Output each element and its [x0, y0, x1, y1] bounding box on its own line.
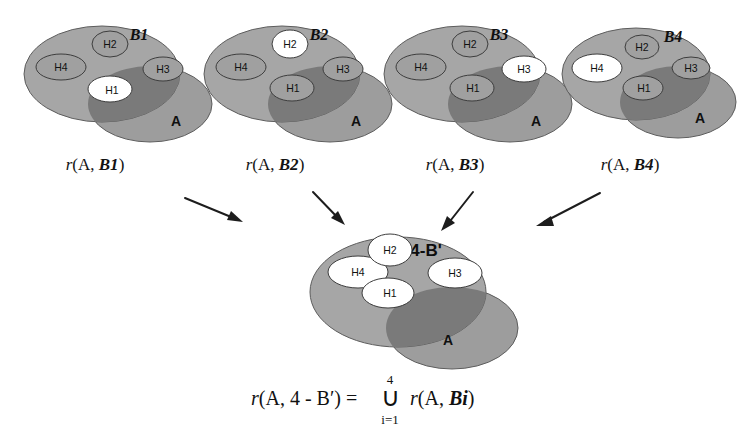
venn-union-figure: B1 A H4 H2 H3 H1 r(A, B1) B2 A	[0, 0, 742, 446]
panel-b4-caption-arg-b: B4	[633, 155, 654, 174]
panel-union-h3-label: H3	[448, 267, 462, 279]
panel-b2-caption-arg-a: A	[258, 155, 271, 174]
panel-b2-h3-label: H3	[336, 63, 350, 75]
panel-union-set-a-label: A	[443, 332, 453, 348]
formula-lhs-r: r	[251, 387, 259, 409]
panel-b1-caption: r(A, B1)	[66, 155, 125, 174]
panel-b1-h4-label: H4	[54, 61, 68, 73]
panel-b4-h4-label: H4	[590, 62, 604, 74]
formula-rhs-arg-b: Bi	[448, 387, 468, 409]
panel-b4-h3-label: H3	[684, 62, 698, 74]
panel-b3-caption: r(A, B3)	[426, 155, 485, 174]
formula-lhs: r(A, 4 - B′) =	[251, 387, 357, 410]
figure-root: B1 A H4 H2 H3 H1 r(A, B1) B2 A	[0, 0, 742, 446]
panel-b3-h1-label: H1	[466, 82, 480, 94]
formula-lhs-args: (A, 4 - B′) =	[259, 387, 357, 410]
formula-rhs-arg-a: A	[424, 387, 439, 409]
formula-union-lower-limit: i=1	[381, 412, 398, 427]
panel-b3-set-b-label: B3	[489, 26, 509, 43]
panel-b3-set-a-label: A	[531, 113, 541, 129]
panel-b1-h1-label: H1	[105, 84, 119, 96]
panel-union-h2-label: H2	[383, 244, 397, 256]
formula-union-symbol: ∪	[381, 383, 400, 412]
panel-b1-h3-label: H3	[156, 63, 170, 75]
panel-b3-caption-arg-a: A	[438, 155, 451, 174]
panel-b4-set-b-label: B4	[663, 28, 683, 45]
panel-b2-h4-label: H4	[234, 61, 248, 73]
panel-b1-h2-label: H2	[103, 38, 117, 50]
panel-b4-h1-label: H1	[637, 82, 651, 94]
panel-b2-h1-label: H1	[286, 82, 300, 94]
panel-b3-h3-label: H3	[517, 63, 531, 75]
panel-b4-h2-label: H2	[635, 41, 649, 53]
panel-b2-caption: r(A, B2)	[246, 155, 305, 174]
panel-union-set-b-label: 4-B'	[410, 241, 441, 260]
panel-b3-h4-label: H4	[414, 61, 428, 73]
panel-b3-h2-label: H2	[463, 38, 477, 50]
panel-b3-caption-arg-b: B3	[458, 155, 479, 174]
panel-b2-set-b-label: B2	[309, 26, 329, 43]
panel-b1-set-b-label: B1	[129, 26, 149, 43]
panel-b1-set-a-label: A	[171, 113, 181, 129]
panel-b2-caption-arg-b: B2	[278, 155, 299, 174]
panel-union-h1-label: H1	[383, 287, 397, 299]
panel-b2-h2-label: H2	[283, 38, 297, 50]
panel-b1-caption-arg-b: B1	[98, 155, 119, 174]
panel-b4-caption: r(A, B4)	[601, 155, 660, 174]
panel-b1-caption-arg-a: A	[78, 155, 91, 174]
panel-b4-set-a-label: A	[695, 110, 705, 126]
panel-b4-caption-arg-a: A	[613, 155, 626, 174]
panel-union-h4-label: H4	[351, 266, 365, 278]
formula-rhs-r: r	[410, 387, 418, 409]
formula-rhs: r(A, Bi)	[410, 387, 475, 410]
panel-b2-set-a-label: A	[351, 113, 361, 129]
